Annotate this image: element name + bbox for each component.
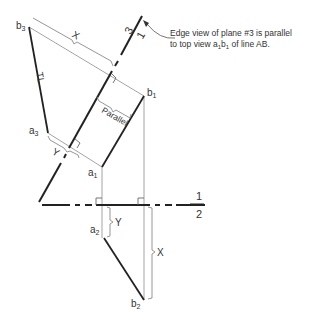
label-b1: b1 xyxy=(147,87,157,99)
bracket-x-aux xyxy=(33,18,113,66)
fold-label-2: 2 xyxy=(196,208,202,220)
dimension-brackets xyxy=(33,18,155,299)
label-b3: b3 xyxy=(16,20,26,32)
note-line-1: Edge view of plane #3 is parallel xyxy=(170,28,292,38)
label-b2: b2 xyxy=(131,298,141,310)
bracket-y-front xyxy=(107,207,113,237)
right-angle-marks xyxy=(75,74,144,205)
line-a2-b2 xyxy=(104,238,144,300)
fold-label-1-aux: 1 xyxy=(134,29,147,40)
projection-b1-b3 xyxy=(29,27,144,96)
note-line-2: to top view a1b1 of line AB. xyxy=(170,39,270,50)
object-lines xyxy=(29,27,144,300)
label-a1: a1 xyxy=(88,167,98,179)
dim-label-y-aux: Y xyxy=(50,146,62,159)
bracket-x-front xyxy=(148,207,155,299)
fold-label-1: 1 xyxy=(196,190,202,202)
dim-label-x-front: X xyxy=(157,247,164,258)
dim-label-true-length: TL xyxy=(34,71,47,84)
label-a3: a3 xyxy=(29,125,39,137)
dim-label-parallel: Parallel xyxy=(100,105,130,128)
label-a2: a2 xyxy=(90,224,100,236)
dim-label-y-front: Y xyxy=(115,217,122,228)
projection-lines xyxy=(29,27,144,300)
descriptive-geometry-diagram: 1 2 3 1 Edge view of plane #3 is paralle… xyxy=(0,0,317,324)
